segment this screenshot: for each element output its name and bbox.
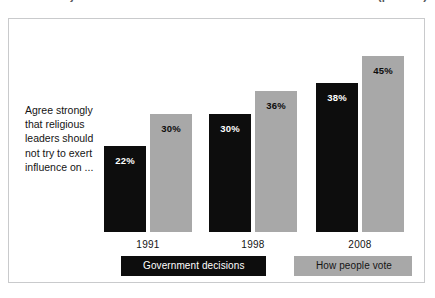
bar-value-label: 45%	[362, 65, 404, 76]
bar-1998-how-people-vote[interactable]: 36%	[255, 91, 297, 232]
bar-1991-government-decisions[interactable]: 22%	[104, 146, 146, 232]
bar-2008-how-people-vote[interactable]: 45%	[362, 56, 404, 232]
plot-area: Agree strongly that religious leaders sh…	[9, 19, 424, 282]
bar-value-label: 38%	[316, 92, 358, 103]
annotation-line: leaders should	[25, 131, 125, 145]
bar-2008-government-decisions[interactable]: 38%	[316, 83, 358, 232]
legend-item-government-decisions[interactable]: Government decisions	[121, 256, 266, 276]
bar-value-label: 36%	[255, 100, 297, 111]
annotation-line: Agree strongly	[25, 103, 125, 117]
caption-text-left: the time objectives to influence ...	[8, 0, 196, 2]
legend-label: How people vote	[316, 260, 392, 271]
legend-item-how-people-vote[interactable]: How people vote	[294, 256, 412, 276]
chart-frame: Agree strongly that religious leaders sh…	[8, 18, 425, 283]
bar-1998-government-decisions[interactable]: 30%	[209, 114, 251, 232]
bar-value-label: 30%	[209, 123, 251, 134]
bar-value-label: 30%	[150, 123, 192, 134]
cropped-caption-strip: the time objectives to influence ... (pe…	[0, 0, 435, 14]
annotation-line: that religious	[25, 117, 125, 131]
caption-text-right: (percent)	[378, 0, 427, 2]
bar-value-label: 22%	[104, 155, 146, 166]
x-axis-label-1998: 1998	[209, 239, 297, 250]
bar-1991-how-people-vote[interactable]: 30%	[150, 114, 192, 232]
x-axis-label-2008: 2008	[316, 239, 404, 250]
chart-legend: Government decisions How people vote	[9, 256, 424, 278]
legend-label: Government decisions	[143, 260, 245, 271]
x-axis-label-1991: 1991	[104, 239, 192, 250]
